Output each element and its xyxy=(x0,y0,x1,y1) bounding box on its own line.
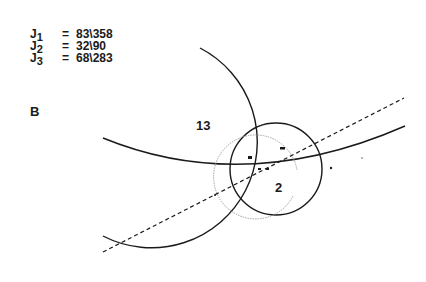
point-mark xyxy=(248,156,252,159)
point-mark xyxy=(258,168,261,170)
point-mark xyxy=(330,167,332,169)
region-label-2: 2 xyxy=(275,180,282,195)
point-mark xyxy=(361,157,363,159)
geometry-diagram xyxy=(0,0,426,282)
shallow-arc xyxy=(103,126,405,164)
point-mark xyxy=(266,168,269,170)
point-mark xyxy=(280,147,285,150)
dashed-line xyxy=(103,98,404,252)
large-circle-arc xyxy=(103,48,257,248)
region-label-13: 13 xyxy=(196,118,210,133)
point-mark xyxy=(214,194,216,196)
